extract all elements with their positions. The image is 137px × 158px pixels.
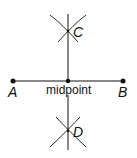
point-c: [67, 30, 69, 32]
label-c: C: [73, 24, 84, 40]
point-d: [67, 130, 69, 132]
point-b: [121, 79, 126, 84]
label-d: D: [73, 124, 83, 140]
point-a: [11, 79, 16, 84]
label-a: A: [7, 84, 17, 100]
perpendicular-bisector-diagram: A B midpoint C D: [0, 0, 137, 158]
label-midpoint: midpoint: [46, 83, 92, 97]
label-b: B: [118, 84, 127, 100]
